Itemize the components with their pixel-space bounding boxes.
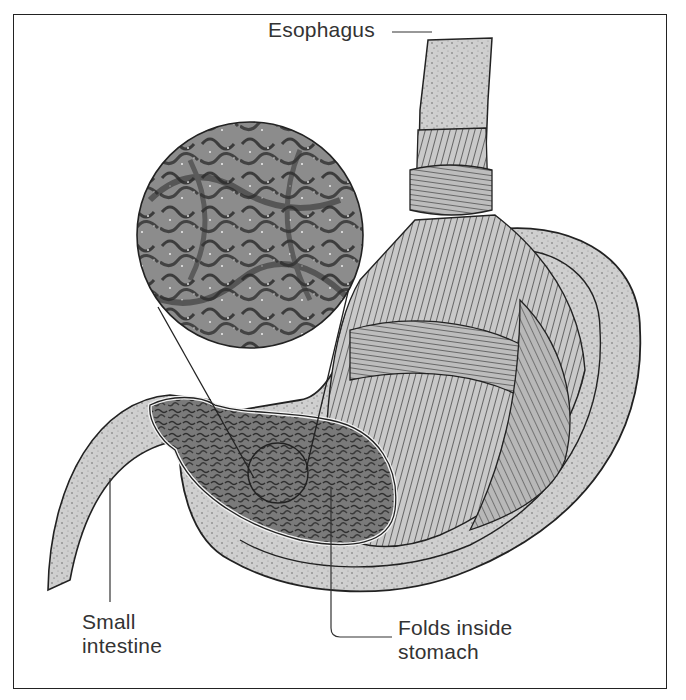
- magnified-folds-inset: [137, 122, 363, 348]
- label-esophagus-text: Esophagus: [268, 18, 375, 41]
- label-folds-inside-stomach: Folds inside stomach: [398, 616, 512, 664]
- label-small-intestine-line2: intestine: [82, 634, 162, 658]
- esophagus: [410, 38, 492, 215]
- detail-region-circle: [248, 443, 308, 503]
- stomach-illustration: [0, 0, 686, 700]
- label-esophagus: Esophagus: [268, 18, 375, 42]
- label-small-intestine-line1: Small: [82, 610, 162, 634]
- label-folds-line2: stomach: [398, 640, 512, 664]
- label-small-intestine: Small intestine: [82, 610, 162, 658]
- label-folds-line1: Folds inside: [398, 616, 512, 640]
